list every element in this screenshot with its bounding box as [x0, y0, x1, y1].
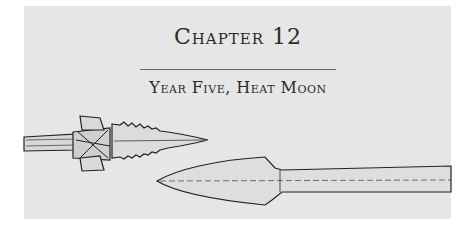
- serrated-spear-icon: [24, 116, 208, 171]
- leaf-spear-icon: [157, 157, 451, 205]
- chapter-subtitle: Year Five, Heat Moon: [0, 78, 476, 97]
- chapter-title: Chapter 12: [0, 24, 476, 49]
- title-divider: [140, 69, 336, 70]
